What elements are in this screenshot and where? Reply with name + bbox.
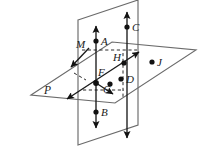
point-f-label: F	[97, 66, 105, 78]
point-d-label: D	[125, 73, 134, 85]
geometry-diagram: A B C D F G H J M P	[0, 0, 201, 158]
point-h-label: H	[112, 51, 122, 63]
point-j-dot	[149, 59, 154, 64]
dash-diagonal-short	[74, 73, 86, 80]
point-a-dot	[93, 38, 98, 43]
point-a-label: A	[100, 35, 108, 47]
plane-p-label: P	[43, 84, 51, 96]
point-h-dot	[121, 60, 126, 65]
point-b-label: B	[101, 106, 108, 118]
ray-intersection-down	[71, 48, 89, 67]
figure-canvas: A B C D F G H J M P	[0, 0, 201, 158]
point-d-dot	[118, 76, 123, 81]
point-b-dot	[93, 109, 98, 114]
point-f-dot	[93, 80, 99, 86]
point-c-dot	[124, 24, 129, 29]
point-c-label: C	[132, 21, 140, 33]
point-j-label: J	[157, 56, 163, 68]
point-g-label: G	[103, 83, 111, 95]
plane-m-label: M	[75, 38, 86, 50]
